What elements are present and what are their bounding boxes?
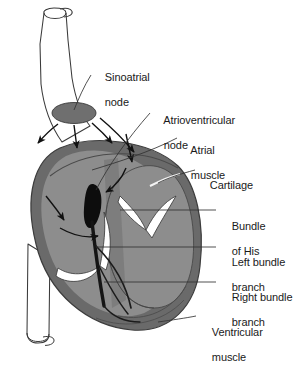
label-ventricular-muscle: Ventricular muscle xyxy=(200,313,263,365)
label-sinoatrial-node-line1: Sinoatrial xyxy=(105,71,150,83)
label-cartilage: Cartilage xyxy=(198,166,253,204)
heart-body xyxy=(31,141,201,331)
label-sinoatrial-node-line2: node xyxy=(105,96,129,108)
sinoatrial-node-ellipse xyxy=(52,103,96,124)
label-ventricular-muscle-line1: Ventricular xyxy=(212,326,263,338)
label-sinoatrial-node: Sinoatrial node xyxy=(93,58,150,121)
label-ventricular-muscle-line2: muscle xyxy=(212,351,246,363)
label-atrial-muscle-line1: Atrial xyxy=(190,144,214,156)
label-atrioventricular-node-line1: Atrioventricular xyxy=(163,114,235,126)
label-left-bundle-branch-line1: Left bundle xyxy=(232,256,285,268)
label-bundle-of-his-line1: Bundle xyxy=(232,220,266,232)
label-cartilage-line1: Cartilage xyxy=(210,179,253,191)
label-right-bundle-branch-line1: Right bundle xyxy=(232,291,293,303)
